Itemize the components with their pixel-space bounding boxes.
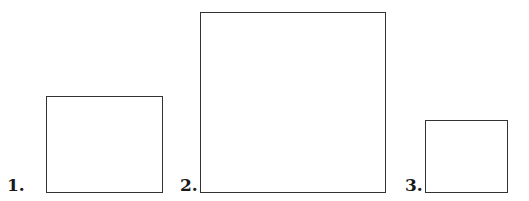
figure-1-rectangle (46, 96, 163, 193)
figure-1-label: 1. (7, 177, 25, 194)
figure-3-square (425, 120, 508, 193)
figure-3-label: 3. (405, 177, 423, 194)
figure-2-square (200, 12, 386, 193)
figure-2-label: 2. (180, 177, 198, 194)
